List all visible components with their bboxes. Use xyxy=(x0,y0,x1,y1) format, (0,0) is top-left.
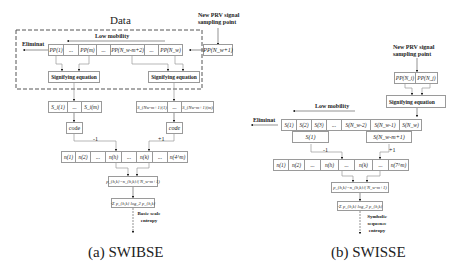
pp-cell: PP(m) xyxy=(79,44,97,56)
n-cell: n(7^m) xyxy=(389,159,409,171)
s-cell: S(2) xyxy=(297,119,312,131)
s-cell: S(1) xyxy=(281,119,297,131)
plus-one-label: +1 xyxy=(389,147,395,153)
s-row: S(1) S(2) S(3) ... S(N_w-2) S(N_w-1) S(N… xyxy=(281,119,422,131)
code-box-left: code xyxy=(66,122,83,134)
n-cell: ... xyxy=(339,159,355,171)
s-cell: S_i(1) xyxy=(48,101,68,113)
s-cell: S_i(m) xyxy=(82,101,102,113)
s-row-left: S_i(1) ... S_i(m) xyxy=(48,101,102,113)
pp-cell: ... xyxy=(97,44,111,56)
pp-cell: ... xyxy=(64,44,79,56)
s-cell: S(N_w) xyxy=(400,119,422,131)
s-cell: S_{Nw-m+1}(1) xyxy=(136,101,168,113)
low-mobility-label: Low mobility xyxy=(95,33,129,39)
pp-row: PP(1) ... PP(m) ... PP(N_w-m+2) ... PP(N… xyxy=(48,44,183,56)
entropy-equation-box: -Σ p_{h,k} log_2 p_{h,k} xyxy=(337,201,383,211)
s-cell: S(N_w-1) xyxy=(371,119,400,131)
new-point-label: New PRV signal sampling point xyxy=(393,44,455,58)
s-cell: ... xyxy=(168,101,182,113)
pp-cell: PP(N_j) xyxy=(416,72,438,84)
n-cell: ... xyxy=(153,151,168,163)
low-mobility-label: Low mobility xyxy=(315,103,349,109)
pp-cell: PP(N_i) xyxy=(394,72,416,84)
eliminat-label: Eliminat xyxy=(22,41,44,47)
s-cell: ... xyxy=(327,119,342,131)
s-cell: S_{Nw-m+1}(m) xyxy=(182,101,214,113)
n-cell: n(2) xyxy=(289,159,305,171)
pp-cell: ... xyxy=(145,44,159,56)
output-label: Basic scale entropy xyxy=(137,210,161,224)
s-cell: S(3) xyxy=(312,119,327,131)
n-cell: ... xyxy=(91,151,106,163)
n-row: n(1) n(2) ... n(h) ... n(k) ... n(7^m) xyxy=(273,159,409,171)
n-cell: n(1) xyxy=(273,159,289,171)
n-cell: n(1) xyxy=(61,151,76,163)
output-label: Symbolic sequence entropy xyxy=(362,213,392,234)
n-row: n(1) n(2) ... n(h) ... n(k) ... n(4^m) xyxy=(61,151,188,163)
entropy-equation-box: -Σ p_{h,k} log_2 p_{h,k} xyxy=(111,198,155,208)
signifying-equation-box: Signifying equation xyxy=(48,71,100,83)
new-point-box: PP(N_w+1) xyxy=(203,44,233,56)
s-row-right: S_{Nw-m+1}(1) ... S_{Nw-m+1}(m) xyxy=(136,101,214,113)
n-cell: ... xyxy=(305,159,321,171)
code-box-right: code xyxy=(166,122,183,134)
n-cell: n(h) xyxy=(321,159,339,171)
n-cell: n(k) xyxy=(355,159,373,171)
pp-cell: PP(1) xyxy=(48,44,64,56)
data-group-title: Data xyxy=(110,14,131,26)
pp-cell: PP(N_w-m+2) xyxy=(111,44,145,56)
n-cell: n(k) xyxy=(137,151,153,163)
new-point-label: New PRV signal sampling point xyxy=(198,12,260,26)
s-group-right: S(N_w-m+1) xyxy=(366,131,412,143)
minus-one-label: -1 xyxy=(93,136,98,142)
signifying-equation-box: Signifying equation xyxy=(148,71,200,83)
probability-equation-box: p_{h,k}=n_{h,k}/( N_w-m+1) xyxy=(108,176,158,187)
n-cell: n(4^m) xyxy=(168,151,188,163)
caption-b: (b) SWISSE xyxy=(331,244,406,261)
n-cell: n(h) xyxy=(106,151,122,163)
n-cell: ... xyxy=(373,159,389,171)
eliminat-label: Eliminat xyxy=(253,117,275,123)
s-group-left: S(1) xyxy=(292,131,329,143)
pp-pair-row: PP(N_i) PP(N_j) xyxy=(394,72,438,84)
minus-one-label: -1 xyxy=(323,147,328,153)
n-cell: n(2) xyxy=(76,151,91,163)
caption-a: (a) SWIBSE xyxy=(88,244,163,261)
s-cell: S(N_w-2) xyxy=(342,119,371,131)
signifying-equation-box: Signifying equation xyxy=(386,95,446,108)
probability-equation-box: p_{h,k}=n_{h,k}/( N_w-m+1) xyxy=(331,182,389,193)
s-cell: ... xyxy=(68,101,82,113)
n-cell: ... xyxy=(122,151,137,163)
plus-one-label: +1 xyxy=(158,136,164,142)
pp-cell: PP(N_w) xyxy=(159,44,183,56)
